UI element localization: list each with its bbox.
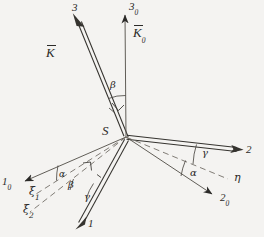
- axis-2-line: [127, 135, 244, 153]
- axis-3-line: [73, 13, 128, 137]
- angle-label-gamma-right: γ: [202, 148, 208, 158]
- aux-label-xi-1: ξ1: [29, 186, 40, 200]
- axis-label-3: 3: [72, 2, 78, 13]
- angle-arc-alpha-right: [181, 161, 186, 177]
- axis-1-zero-line: [25, 137, 126, 181]
- line-xi-1: [36, 137, 126, 194]
- overbar-K: [47, 45, 56, 46]
- axis-label-1-zero-sub: 0: [8, 183, 12, 192]
- axis-label-3-zero-base: 3: [129, 0, 135, 12]
- vector-K-tick: [109, 108, 115, 113]
- angle-label-alpha-left: α: [59, 170, 65, 179]
- aux-label-xi-1-sub: 1: [35, 193, 40, 202]
- angle-label-beta-lower: β: [68, 180, 74, 190]
- right-angle-marker-lower: [83, 162, 101, 178]
- line-eta: [126, 137, 228, 179]
- axis-label-3-zero-sub: 0: [135, 8, 139, 17]
- axis-label-2-zero-base: 2: [220, 191, 226, 203]
- vector-label-K-zero-sub: 0: [142, 36, 146, 45]
- axis-label-1-zero: 10: [2, 176, 11, 190]
- angle-label-gamma-lower: γ: [84, 192, 90, 202]
- aux-label-xi-2-sub: 2: [29, 211, 34, 220]
- vector-label-K-zero-base: K: [133, 25, 142, 40]
- axis-1-line: [75, 139, 128, 229]
- axis-label-2: 2: [246, 144, 252, 155]
- axis-3-zero-line: [125, 15, 126, 137]
- axis-label-1: 1: [88, 218, 94, 229]
- axis-label-2-zero-sub: 0: [226, 199, 230, 208]
- vector-diagram: 3 30 K K0 S β 2 γ α η 20 10 ξ1 ξ2 α β γ …: [0, 0, 264, 237]
- right-angle-marker-upper: [112, 103, 124, 111]
- axis-label-1-zero-base: 1: [2, 175, 8, 187]
- angle-arc-alpha-left: [56, 166, 58, 181]
- axis-2-zero-line: [126, 137, 212, 194]
- vector-label-K-base: K: [46, 45, 55, 60]
- axis-label-3-zero: 30: [129, 1, 138, 15]
- aux-label-xi-2: ξ2: [23, 204, 34, 218]
- vector-label-K: K: [46, 46, 55, 59]
- line-xi-2: [30, 137, 126, 212]
- angle-label-alpha-right: α: [190, 168, 197, 178]
- overbar-K-zero: [134, 25, 143, 26]
- aux-label-eta: η: [234, 172, 241, 183]
- axis-label-2-zero: 20: [220, 192, 229, 206]
- angle-label-beta-upper: β: [110, 80, 116, 90]
- vector-label-K-zero: K0: [133, 26, 145, 42]
- origin-label-S: S: [102, 124, 109, 137]
